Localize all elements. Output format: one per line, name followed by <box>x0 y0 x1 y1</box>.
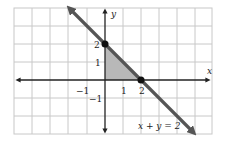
x-tick-neg1: −1 <box>76 86 89 96</box>
y-tick-neg1: −1 <box>89 94 102 104</box>
y-tick-2: 2 <box>94 40 100 50</box>
point-0-2 <box>102 41 109 48</box>
x-tick-2: 2 <box>139 86 145 96</box>
point-2-0 <box>138 77 145 84</box>
y-axis-label: y <box>110 9 117 19</box>
y-tick-1: 1 <box>95 58 101 68</box>
line-x-plus-y-equals-2 <box>70 9 193 132</box>
equation-label: x + y = 2 <box>138 121 181 131</box>
x-tick-1: 1 <box>121 86 127 96</box>
coordinate-plane: y x 2 1 −1 −1 1 2 x + y = 2 <box>0 0 225 146</box>
x-axis-label: x <box>207 66 212 76</box>
